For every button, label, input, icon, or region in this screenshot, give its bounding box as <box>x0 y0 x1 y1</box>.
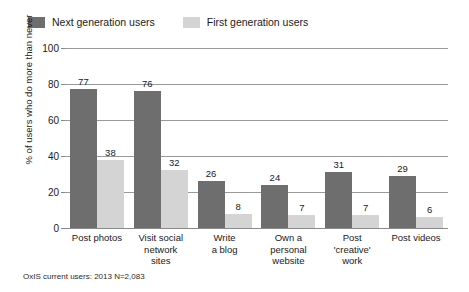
bar-value-label: 7 <box>363 202 368 213</box>
bar-value-label: 38 <box>105 147 116 158</box>
x-axis-label: Post photos <box>65 232 129 276</box>
bar-item[interactable]: 8 <box>225 48 252 228</box>
bar-value-label: 8 <box>235 201 240 212</box>
bar-value-label: 6 <box>427 204 432 215</box>
bar[interactable] <box>416 217 443 228</box>
y-tick-label: 60 <box>48 115 59 126</box>
legend-label: First generation users <box>207 16 309 28</box>
bar[interactable] <box>325 172 352 228</box>
bar-value-label: 7 <box>299 202 304 213</box>
legend-label: Next generation users <box>52 16 155 28</box>
y-axis-title: % of users who do more than never <box>23 0 34 180</box>
bar-group: 247 <box>256 48 320 228</box>
x-axis-label: Visit socialnetworksites <box>129 232 193 276</box>
bar[interactable] <box>225 214 252 228</box>
x-axis-label: Writea blog <box>193 232 257 276</box>
bar-value-label: 31 <box>333 159 344 170</box>
bar[interactable] <box>389 176 416 228</box>
y-tick-mark <box>61 228 65 229</box>
y-tick-label: 80 <box>48 79 59 90</box>
bar-group: 268 <box>193 48 257 228</box>
bar-item[interactable]: 76 <box>134 48 161 228</box>
bar-value-label: 24 <box>270 172 281 183</box>
bar-value-label: 32 <box>169 157 180 168</box>
source-note: OxIS current users: 2013 N=2,083 <box>23 272 145 281</box>
bar-item[interactable]: 29 <box>389 48 416 228</box>
bar[interactable] <box>198 181 225 228</box>
bar-item[interactable]: 24 <box>261 48 288 228</box>
bar-value-label: 26 <box>206 168 217 179</box>
legend-entry-next-generation-users: Next generation users <box>28 16 155 28</box>
legend-entry-first-generation-users: First generation users <box>183 16 309 28</box>
bar-group: 317 <box>320 48 384 228</box>
x-axis-label: Post'creative'work <box>320 232 384 276</box>
bar-chart: Next generation users First generation u… <box>0 0 469 292</box>
bar-groups: 77387632268247317296 <box>65 48 448 228</box>
y-tick-label: 40 <box>48 151 59 162</box>
bar-item[interactable]: 7 <box>352 48 379 228</box>
y-tick-label: 0 <box>53 223 59 234</box>
bar[interactable] <box>134 91 161 228</box>
bar-value-label: 77 <box>78 76 89 87</box>
bar-group: 7738 <box>65 48 129 228</box>
bar-item[interactable]: 32 <box>161 48 188 228</box>
gridline <box>65 228 448 229</box>
y-tick-label: 20 <box>48 187 59 198</box>
bar[interactable] <box>288 215 315 228</box>
bar-value-label: 29 <box>397 163 408 174</box>
bar[interactable] <box>352 215 379 228</box>
plot-area: 020406080100 77387632268247317296 <box>65 48 448 228</box>
legend-swatch-icon <box>183 17 200 28</box>
bar[interactable] <box>97 160 124 228</box>
bar-item[interactable]: 6 <box>416 48 443 228</box>
bar-item[interactable]: 31 <box>325 48 352 228</box>
bar-value-label: 76 <box>142 78 153 89</box>
x-axis-label: Post videos <box>384 232 448 276</box>
bar-item[interactable]: 7 <box>288 48 315 228</box>
bar-item[interactable]: 26 <box>198 48 225 228</box>
bar-item[interactable]: 38 <box>97 48 124 228</box>
bar[interactable] <box>161 170 188 228</box>
x-axis-label: Own apersonalwebsite <box>256 232 320 276</box>
x-axis-labels: Post photosVisit socialnetworksitesWrite… <box>65 232 448 276</box>
bar-group: 7632 <box>129 48 193 228</box>
chart-legend: Next generation users First generation u… <box>28 14 308 30</box>
bar[interactable] <box>70 89 97 228</box>
bar-item[interactable]: 77 <box>70 48 97 228</box>
bar-group: 296 <box>384 48 448 228</box>
y-tick-label: 100 <box>42 43 59 54</box>
bar[interactable] <box>261 185 288 228</box>
